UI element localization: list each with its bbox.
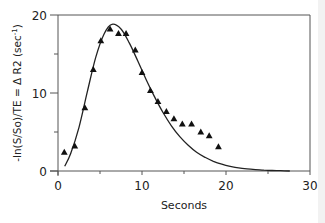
- y-tick-label: 20: [32, 9, 47, 23]
- y-axis-label-main: -ln(S/So)/TE = Δ R2 (sec: [11, 35, 23, 162]
- x-tick-label: 20: [218, 179, 233, 193]
- triangle-marker: [215, 143, 222, 149]
- x-tick-label: 10: [134, 179, 149, 193]
- triangle-marker: [71, 142, 78, 148]
- triangle-marker: [171, 115, 178, 121]
- triangle-marker: [163, 108, 170, 114]
- y-axis-label-close: ): [11, 24, 23, 28]
- chart-canvas: 0102030 01020 Seconds -ln(S/So)/TE = Δ R…: [0, 0, 325, 223]
- triangle-marker: [81, 104, 88, 110]
- triangle-marker: [188, 121, 195, 127]
- triangle-marker: [147, 87, 154, 93]
- triangle-marker: [115, 30, 122, 36]
- x-tick-label: 30: [302, 179, 317, 193]
- triangle-marker: [90, 66, 97, 72]
- chart: 0102030 01020 Seconds -ln(S/So)/TE = Δ R…: [0, 0, 325, 223]
- data-markers: [61, 25, 222, 154]
- triangle-marker: [206, 132, 213, 138]
- y-axis-label-sup: -1: [11, 28, 19, 35]
- x-axis: 0102030: [50, 171, 318, 193]
- x-tick-label: 0: [54, 179, 62, 193]
- triangle-marker: [197, 128, 204, 134]
- x-axis-label: Seconds: [161, 199, 207, 212]
- fit-curve-path: [65, 24, 290, 171]
- y-axis: 01020: [32, 9, 58, 179]
- triangle-marker: [179, 121, 186, 127]
- fit-curve: [65, 24, 290, 171]
- y-tick-label: 0: [39, 165, 47, 179]
- triangle-marker: [61, 149, 68, 155]
- side-strip: [318, 0, 325, 223]
- triangle-marker: [97, 37, 104, 43]
- triangle-marker: [139, 69, 146, 75]
- y-tick-label: 10: [32, 87, 47, 101]
- y-axis-label: -ln(S/So)/TE = Δ R2 (sec-1): [11, 24, 23, 162]
- plot-frame: [58, 15, 310, 171]
